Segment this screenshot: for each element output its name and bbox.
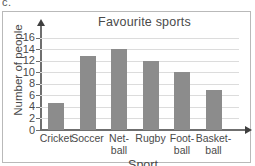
chart-title: Favourite sports (43, 15, 246, 29)
x-axis-arrow-icon (245, 126, 252, 134)
y-tick-mark (36, 61, 40, 62)
x-axis-label: Sport (40, 158, 246, 166)
y-tick-mark (36, 95, 40, 96)
question-label: c. (2, 0, 12, 8)
bar (48, 103, 64, 130)
y-tick-label: 14 (23, 49, 35, 50)
y-tick-label: 10 (23, 72, 35, 73)
bar (174, 72, 190, 130)
y-tick-mark (36, 49, 40, 50)
grid-line (40, 61, 239, 62)
y-tick-mark (36, 72, 40, 73)
grid-line (40, 84, 239, 85)
y-tick-label: 2 (29, 118, 35, 119)
grid-line (40, 49, 239, 50)
y-tick-label: 0 (29, 130, 35, 131)
plot-area: 0246810121416CricketSoccerNet- ballRugby… (40, 32, 239, 130)
y-tick-mark (36, 118, 40, 119)
bar (206, 90, 222, 130)
y-tick-mark (36, 38, 40, 39)
y-axis-arrow-icon (37, 19, 45, 26)
x-category-label: Basket- ball (193, 133, 235, 156)
y-axis-line (40, 24, 42, 130)
grid-line (40, 72, 239, 73)
y-tick-label: 16 (23, 37, 35, 38)
bar (111, 49, 127, 130)
chart-frame: Favourite sports Number of people 024681… (2, 11, 251, 163)
bar (80, 56, 96, 130)
y-tick-mark (36, 84, 40, 85)
y-tick-label: 8 (29, 83, 35, 84)
grid-line (40, 38, 239, 39)
bar (143, 61, 159, 130)
y-tick-label: 12 (23, 60, 35, 61)
y-tick-label: 6 (29, 95, 35, 96)
y-tick-mark (36, 107, 40, 108)
y-tick-mark (36, 130, 40, 131)
y-tick-label: 4 (29, 106, 35, 107)
